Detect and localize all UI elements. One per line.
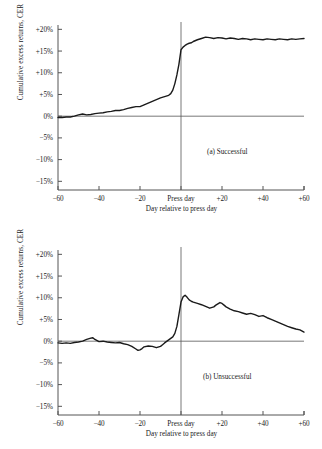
y-tick-label: +5% <box>39 316 53 324</box>
reference-lines-successful <box>58 22 304 190</box>
x-axis-title-unsuccessful: Day relative to press day <box>58 430 305 438</box>
x-tick-label: Press day <box>167 420 195 428</box>
x-tick-label: −20 <box>134 195 146 203</box>
figure-cumulative-excess-returns: +20%+15%+10%+5%0%−5%−10%−15%−60−40−20Pre… <box>0 0 322 449</box>
y-tick-label: +15% <box>36 273 53 281</box>
x-tick-label: −40 <box>93 420 105 428</box>
y-tick-label: −15% <box>36 178 53 186</box>
x-tick-label: +20 <box>216 195 228 203</box>
x-tick-label: −60 <box>52 420 64 428</box>
y-tick-label: 0% <box>43 113 53 121</box>
x-tick-label: −60 <box>52 195 64 203</box>
x-tick-label: +40 <box>257 420 269 428</box>
y-tick-label: +5% <box>39 91 53 99</box>
x-tick-label: −40 <box>93 195 105 203</box>
x-tick-label: Press day <box>167 195 195 203</box>
tick-labels-unsuccessful: +20%+15%+10%+5%0%−5%−10%−15%−60−40−20Pre… <box>36 251 310 428</box>
y-axis-title-unsuccessful: Cumulative excess returns, CER <box>17 207 25 347</box>
tick-labels-successful: +20%+15%+10%+5%0%−5%−10%−15%−60−40−20Pre… <box>36 26 310 203</box>
y-tick-label: 0% <box>43 338 53 346</box>
y-tick-label: +15% <box>36 48 53 56</box>
plot-area-successful: +20%+15%+10%+5%0%−5%−10%−15%−60−40−20Pre… <box>0 0 322 224</box>
y-tick-label: −5% <box>39 359 53 367</box>
y-tick-label: +10% <box>36 69 53 77</box>
plot-area-unsuccessful: +20%+15%+10%+5%0%−5%−10%−15%−60−40−20Pre… <box>0 225 322 449</box>
x-axis-title-successful: Day relative to press day <box>58 205 305 213</box>
y-tick-label: −10% <box>36 381 53 389</box>
x-tick-label: +40 <box>257 195 269 203</box>
y-tick-label: +20% <box>36 26 53 34</box>
y-tick-label: +10% <box>36 294 53 302</box>
panel-tag-unsuccessful: (b) Unsuccessful <box>203 373 252 381</box>
chart-panel-successful: +20%+15%+10%+5%0%−5%−10%−15%−60−40−20Pre… <box>0 0 322 224</box>
x-tick-label: +20 <box>216 420 228 428</box>
y-tick-label: −10% <box>36 156 53 164</box>
reference-lines-unsuccessful <box>58 247 304 415</box>
panel-tag-successful: (a) Successful <box>207 148 248 156</box>
y-tick-label: −5% <box>39 134 53 142</box>
y-tick-label: −15% <box>36 403 53 411</box>
x-tick-label: +60 <box>298 420 310 428</box>
y-tick-label: +20% <box>36 251 53 259</box>
chart-panel-unsuccessful: +20%+15%+10%+5%0%−5%−10%−15%−60−40−20Pre… <box>0 225 322 449</box>
x-tick-label: +60 <box>298 195 310 203</box>
y-axis-title-successful: Cumulative excess returns, CER <box>17 0 25 122</box>
x-tick-label: −20 <box>134 420 146 428</box>
